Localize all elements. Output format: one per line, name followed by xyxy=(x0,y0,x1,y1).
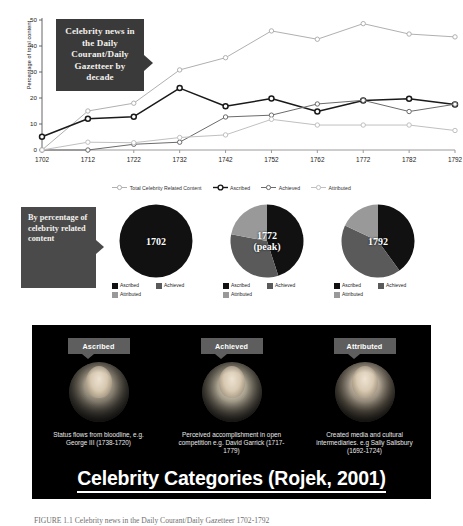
chart-legend-item: Total Celebrity Related Content xyxy=(112,184,201,191)
celebrity-categories-section: AscribedStatus flows from bloodline, e.g… xyxy=(0,322,463,512)
pie-legend-label: Attributed xyxy=(342,291,363,299)
pie-legend-swatch-icon xyxy=(112,292,118,298)
figure-caption: FIGURE 1.1 Celebrity news in the Daily C… xyxy=(34,516,454,526)
pie-legend-item: Ascribed xyxy=(334,282,378,290)
legend-marker-icon xyxy=(213,184,228,191)
svg-text:1782: 1782 xyxy=(402,156,417,163)
pies-callout-box: By percentage of celebrity related conte… xyxy=(21,207,96,288)
panel-title-text: Celebrity Categories (Rojek, 2001) xyxy=(77,467,386,493)
pie-legend-item: Achieved xyxy=(267,282,311,290)
pie-legend-swatch-icon xyxy=(334,283,340,289)
pie-chart-group: 1702AscribedAchievedAttributed xyxy=(108,204,204,300)
chart-legend-label: Attributed xyxy=(329,185,351,191)
pie-charts-section: By percentage of celebrity related conte… xyxy=(0,200,463,322)
pie-legend-label: Attributed xyxy=(120,291,141,299)
svg-text:1722: 1722 xyxy=(127,156,142,163)
category-description: Created media and cultural intermediarie… xyxy=(309,431,421,456)
pie-legend-item: Ascribed xyxy=(223,282,267,290)
category-card: AttributedCreated media and cultural int… xyxy=(298,338,431,456)
svg-text:1772: 1772 xyxy=(356,156,371,163)
category-description: Status flows from bloodline, e.g. George… xyxy=(43,431,155,447)
pie-chart: 1702 xyxy=(119,204,193,278)
pie-legend: AscribedAchievedAttributed xyxy=(223,282,311,300)
category-description: Perceived accomplishment in open competi… xyxy=(176,431,288,456)
svg-text:10: 10 xyxy=(30,120,37,127)
pie-legend-swatch-icon xyxy=(334,292,340,298)
pie-legend: AscribedAchievedAttributed xyxy=(112,282,200,300)
pie-legend: AscribedAchievedAttributed xyxy=(334,282,422,300)
chart-legend-label: Ascribed xyxy=(230,185,250,191)
pie-legend-item: Achieved xyxy=(378,282,422,290)
svg-text:1702: 1702 xyxy=(35,156,50,163)
line-chart-section: 0102030405017021712172217321742175217621… xyxy=(0,0,463,200)
svg-text:1762: 1762 xyxy=(310,156,325,163)
pie-legend-item: Attributed xyxy=(112,291,156,299)
pie-legend-swatch-icon xyxy=(378,283,384,289)
pie-legend-item: Ascribed xyxy=(112,282,156,290)
chart-legend-item: Attributed xyxy=(311,184,351,191)
pie-chart: 1792 xyxy=(341,204,415,278)
pie-legend-swatch-icon xyxy=(223,292,229,298)
category-card: AchievedPerceived accomplishment in open… xyxy=(165,338,298,456)
infographic-page: 0102030405017021712172217321742175217621… xyxy=(0,0,463,526)
svg-text:1752: 1752 xyxy=(264,156,279,163)
chart-legend-label: Achieved xyxy=(279,185,300,191)
pie-chart-group: 1772(peak)AscribedAchievedAttributed xyxy=(219,204,315,300)
pie-legend-swatch-icon xyxy=(267,283,273,289)
legend-marker-icon xyxy=(261,184,276,191)
pie-legend-label: Achieved xyxy=(164,282,184,290)
dark-panel: AscribedStatus flows from bloodline, e.g… xyxy=(32,325,431,499)
category-card: AscribedStatus flows from bloodline, e.g… xyxy=(32,338,165,456)
pie-legend-swatch-icon xyxy=(112,283,118,289)
svg-text:1712: 1712 xyxy=(81,156,96,163)
pie-legend-item: Achieved xyxy=(156,282,200,290)
chart-legend-item: Ascribed xyxy=(213,184,251,191)
pie-legend-label: Ascribed xyxy=(342,282,361,290)
pie-legend-item: Attributed xyxy=(223,291,267,299)
portrait-image xyxy=(69,362,129,422)
category-cards: AscribedStatus flows from bloodline, e.g… xyxy=(32,338,431,456)
pie-legend-item: Attributed xyxy=(334,291,378,299)
pie-chart-group: 1792AscribedAchievedAttributed xyxy=(330,204,426,300)
svg-text:1792: 1792 xyxy=(448,156,463,163)
chart-legend: Total Celebrity Related ContentAscribedA… xyxy=(0,184,463,191)
pie-legend-label: Ascribed xyxy=(231,282,250,290)
pie-legend-swatch-icon xyxy=(156,283,162,289)
legend-marker-icon xyxy=(311,184,326,191)
pie-chart: 1772(peak) xyxy=(230,204,304,278)
portrait-image xyxy=(202,362,262,422)
chart-legend-label: Total Celebrity Related Content xyxy=(130,185,202,191)
pie-legend-label: Ascribed xyxy=(120,282,139,290)
pie-legend-swatch-icon xyxy=(223,283,229,289)
category-tag: Ascribed xyxy=(68,338,130,354)
chart-callout-box: Celebrity news in the Daily Courant/Dail… xyxy=(56,19,144,91)
category-tag: Attributed xyxy=(334,338,396,354)
category-tag: Achieved xyxy=(201,338,263,354)
pie-legend-label: Achieved xyxy=(386,282,406,290)
pie-legend-label: Achieved xyxy=(275,282,295,290)
panel-title: Celebrity Categories (Rojek, 2001) xyxy=(32,467,431,493)
svg-text:1732: 1732 xyxy=(173,156,188,163)
chart-y-axis-label: Percentage of total content xyxy=(26,0,32,110)
svg-text:0: 0 xyxy=(34,146,38,153)
pie-legend-label: Attributed xyxy=(231,291,252,299)
legend-marker-icon xyxy=(112,184,127,191)
chart-legend-item: Achieved xyxy=(261,184,300,191)
svg-text:1742: 1742 xyxy=(218,156,233,163)
portrait-image xyxy=(335,362,395,422)
